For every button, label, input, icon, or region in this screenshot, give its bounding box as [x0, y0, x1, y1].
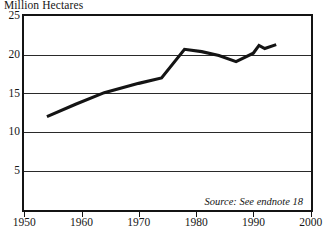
data-line-series — [47, 45, 276, 117]
y-axis-label-25: 25 — [0, 10, 20, 21]
chart-figure: Million Hectares 25 20 15 10 5 Source: S… — [0, 0, 331, 245]
plot-area — [22, 14, 313, 212]
y-axis-label-10: 10 — [0, 126, 20, 137]
x-axis-label-1950: 1950 — [1, 216, 47, 228]
x-axis-label-2000: 2000 — [288, 216, 331, 228]
x-axis-label-1980: 1980 — [173, 216, 219, 228]
source-note: Source: See endnote 18 — [205, 196, 303, 207]
x-axis-label-1970: 1970 — [116, 216, 162, 228]
series-layer — [24, 16, 311, 210]
x-axis-label-1990: 1990 — [230, 216, 276, 228]
data-line-area — [24, 16, 311, 210]
y-axis-label-15: 15 — [0, 88, 20, 99]
y-axis-label-20: 20 — [0, 49, 20, 60]
x-axis-label-1960: 1960 — [59, 216, 105, 228]
y-axis-label-5: 5 — [0, 165, 20, 176]
